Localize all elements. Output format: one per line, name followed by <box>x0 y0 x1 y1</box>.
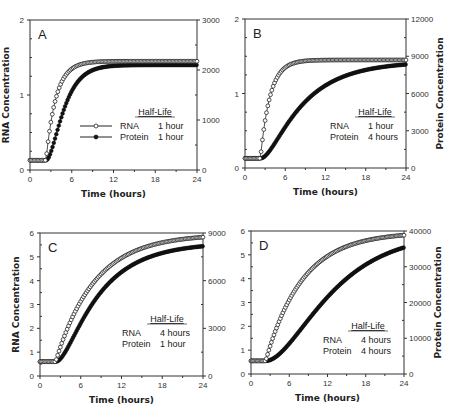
y-tick-label: 2 <box>30 324 35 333</box>
legend-item-name: RNA <box>122 328 141 338</box>
legend-item-value: 1 hour <box>158 132 184 142</box>
legend-item-value: 4 hours <box>361 335 392 345</box>
y-axis-right: 030006000900012000Protein Concentration <box>404 15 445 173</box>
y-tick-label: 2 <box>20 16 25 25</box>
legend-item-value: 1 hour <box>160 339 186 349</box>
y-axis-left: 0123456RNA Concentration <box>11 229 42 381</box>
x-axis-label: Time (hours) <box>81 189 146 199</box>
legend: Half-LifeRNA4 hoursProtein1 hour <box>122 314 191 349</box>
y2-tick-label: 30000 <box>409 263 432 272</box>
legend-item-value: 4 hours <box>368 132 399 142</box>
y2-tick-label: 0 <box>409 370 414 379</box>
x-axis-label: Time (hours) <box>295 393 360 403</box>
filled-circle-marker-icon <box>94 135 98 139</box>
legend: Half-LifeRNA1 hourProtein4 hours <box>330 107 399 142</box>
x-tick-label: 12 <box>323 379 332 388</box>
y-tick-label: 0 <box>241 370 246 379</box>
y-tick-label: 6 <box>241 227 246 236</box>
x-tick-label: 18 <box>361 379 370 388</box>
y-tick-label: 3 <box>30 301 35 310</box>
y2-tick-label: 6000 <box>208 277 226 286</box>
y-axis-right: 010000200003000040000Protein Concentrati… <box>402 227 443 379</box>
x-tick-label: 24 <box>400 379 409 388</box>
y2-tick-label: 20000 <box>409 299 432 308</box>
legend-item-name: Protein <box>330 132 359 142</box>
legend-item-value: 4 hours <box>361 346 392 356</box>
legend-item-name: Protein <box>120 132 149 142</box>
y-tick-label: 1 <box>235 90 240 99</box>
legend-item-value: 1 hour <box>158 121 184 131</box>
y2-tick-label: 6000 <box>411 90 429 99</box>
x-axis-label: Time (hours) <box>89 395 154 405</box>
x-tick-label: 18 <box>361 173 370 182</box>
x-tick-label: 18 <box>151 175 160 184</box>
x-tick-label: 18 <box>158 381 167 390</box>
panel-a-chart: 06121824Time (hours)012RNA Concentration… <box>1 16 220 199</box>
y2-tick-label: 3000 <box>208 324 226 333</box>
x-tick-label: 12 <box>117 381 126 390</box>
x-axis: 06121824Time (hours) <box>249 374 409 403</box>
y2-tick-label: 2000 <box>202 66 220 75</box>
x-axis: 06121824Time (hours) <box>243 168 411 197</box>
legend-item-name: Protein <box>122 339 151 349</box>
y-tick-label: 2 <box>241 322 246 331</box>
x-tick-label: 0 <box>243 173 248 182</box>
legend-item-name: RNA <box>330 121 349 131</box>
legend-item-value: 4 hours <box>160 328 191 338</box>
x-axis: 06121824Time (hours) <box>38 376 208 405</box>
x-tick-label: 6 <box>287 379 292 388</box>
x-tick-label: 6 <box>70 175 75 184</box>
y-axis-label-left: RNA Concentration <box>11 256 21 352</box>
y2-tick-label: 3000 <box>411 127 429 136</box>
y-tick-label: 6 <box>30 229 35 238</box>
y-tick-label: 1 <box>241 346 246 355</box>
y2-tick-label: 12000 <box>411 15 434 24</box>
y-tick-label: 1 <box>30 348 35 357</box>
panel-letter: B <box>253 26 262 41</box>
y-axis-label-right: Protein Concentration <box>435 37 445 149</box>
legend-title: Half-Life <box>358 107 392 117</box>
x-tick-label: 24 <box>193 175 202 184</box>
x-tick-label: 0 <box>28 175 33 184</box>
y-tick-label: 5 <box>241 251 246 260</box>
panel-letter: D <box>259 238 268 253</box>
y2-tick-label: 9000 <box>411 52 429 61</box>
y2-tick-label: 10000 <box>409 334 432 343</box>
y2-tick-label: 40000 <box>409 227 432 236</box>
x-axis: 06121824Time (hours) <box>28 170 202 199</box>
y-axis-left: 012RNA Concentration <box>1 16 32 175</box>
panel-letter: A <box>38 27 47 42</box>
y2-tick-label: 0 <box>202 166 207 175</box>
x-tick-label: 0 <box>38 381 43 390</box>
legend-title: Half-Life <box>138 107 172 117</box>
y-tick-label: 2 <box>235 15 240 24</box>
legend-item-name: RNA <box>323 335 342 345</box>
y2-tick-label: 0 <box>208 372 213 381</box>
y-tick-label: 1 <box>20 91 25 100</box>
y-axis-label-left: RNA Concentration <box>1 47 11 143</box>
x-tick-label: 0 <box>249 379 254 388</box>
x-tick-label: 24 <box>199 381 208 390</box>
x-tick-label: 6 <box>79 381 84 390</box>
x-tick-label: 24 <box>402 173 411 182</box>
legend-title: Half-Life <box>150 314 184 324</box>
y2-tick-label: 9000 <box>208 229 226 238</box>
panel-c-chart: 06121824Time (hours)0123456RNA Concentra… <box>11 229 226 405</box>
legend: Half-LifeRNA1 hourProtein1 hour <box>80 107 184 142</box>
y-tick-label: 5 <box>30 253 35 262</box>
legend: Half-LifeRNA4 hoursProtein4 hours <box>323 321 392 356</box>
figure-canvas: 06121824Time (hours)012RNA Concentration… <box>0 0 452 411</box>
y-tick-label: 0 <box>20 166 25 175</box>
legend-title: Half-Life <box>351 321 385 331</box>
y-axis-right: 0300060009000 <box>201 229 226 381</box>
y-tick-label: 4 <box>241 275 246 284</box>
x-tick-label: 12 <box>321 173 330 182</box>
panel-letter: C <box>48 240 57 255</box>
y2-tick-label: 1000 <box>202 116 220 125</box>
y-tick-label: 3 <box>241 299 246 308</box>
x-tick-label: 12 <box>109 175 118 184</box>
panel-b-chart: 06121824Time (hours)01203000600090001200… <box>235 15 445 197</box>
x-tick-label: 6 <box>283 173 288 182</box>
y2-tick-label: 0 <box>411 164 416 173</box>
open-circle-marker-icon <box>94 124 98 128</box>
